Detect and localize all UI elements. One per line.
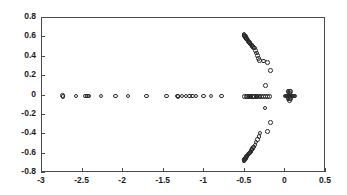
scatter-point <box>126 94 131 99</box>
figure-canvas: -3-2.5-2-1.5-1-0.500.5 -0.8-0.6-0.4-0.20… <box>0 0 347 195</box>
scatter-point <box>265 60 270 65</box>
scatter-point <box>61 94 66 99</box>
scatter-point <box>292 94 297 99</box>
scatter-point <box>219 94 224 99</box>
scatter-point <box>283 94 288 99</box>
scatter-point <box>267 94 272 99</box>
scatter-point <box>144 94 149 99</box>
scatter-point <box>209 94 214 99</box>
scatter-point <box>113 94 118 99</box>
scatter-point <box>194 94 199 99</box>
scatter-point <box>268 120 273 125</box>
scatter-point <box>263 106 268 111</box>
scatter-point <box>263 83 268 88</box>
scatter-point <box>164 94 169 99</box>
scatter-point <box>87 94 92 99</box>
scatter-point <box>268 68 273 73</box>
scatter-point <box>99 94 104 99</box>
scatter-point <box>201 94 206 99</box>
scatter-markers-layer <box>0 0 347 195</box>
scatter-point <box>242 159 247 164</box>
scatter-point <box>265 129 270 134</box>
scatter-point <box>74 94 79 99</box>
